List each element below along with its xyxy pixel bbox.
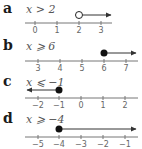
tick-label: 1 bbox=[100, 101, 105, 110]
tick-label: 5 bbox=[79, 64, 84, 73]
item-label: c bbox=[3, 73, 12, 89]
tick-label: −5 bbox=[32, 140, 44, 149]
tick-label: −2 bbox=[32, 101, 44, 110]
tick-label: −2 bbox=[97, 140, 109, 149]
tick-label: 7 bbox=[123, 64, 128, 73]
inequality-text: x ⩾ −4 bbox=[26, 113, 64, 126]
number-line-a: a x > 2 0 1 2 3 bbox=[3, 0, 112, 35]
tick-label: 2 bbox=[76, 26, 81, 35]
item-label: d bbox=[3, 110, 13, 126]
tick-label: 4 bbox=[57, 64, 62, 73]
tick-label: −3 bbox=[75, 140, 87, 149]
tick-label: −1 bbox=[119, 140, 131, 149]
number-line-b: b x ⩾ 6 3 4 5 6 7 bbox=[3, 37, 138, 73]
tick-label: 1 bbox=[54, 26, 59, 35]
tick-label: 6 bbox=[101, 64, 106, 73]
inequality-text: x > 2 bbox=[26, 3, 55, 16]
tick-label: 0 bbox=[78, 101, 83, 110]
open-circle-icon bbox=[76, 12, 83, 19]
number-line-d: d x ⩾ −4 −5 −4 −3 −2 −1 bbox=[3, 110, 138, 149]
tick-label: 2 bbox=[122, 101, 127, 110]
tick-label: 3 bbox=[98, 26, 103, 35]
tick-label: 0 bbox=[32, 26, 37, 35]
number-line-c: c x ⩽ −1 −2 −1 0 1 2 bbox=[3, 73, 138, 110]
tick-label: −4 bbox=[53, 140, 65, 149]
item-label: b bbox=[3, 37, 13, 53]
closed-dot-icon bbox=[56, 126, 63, 133]
tick-label: 3 bbox=[35, 64, 40, 73]
inequality-text: x ⩾ 6 bbox=[26, 40, 55, 53]
closed-dot-icon bbox=[56, 87, 63, 94]
number-lines-figure: a x > 2 0 1 2 3 b x ⩾ 6 3 4 5 6 7 c x ⩽ bbox=[0, 0, 142, 149]
tick-label: −1 bbox=[53, 101, 65, 110]
closed-dot-icon bbox=[101, 50, 108, 57]
item-label: a bbox=[3, 0, 12, 16]
